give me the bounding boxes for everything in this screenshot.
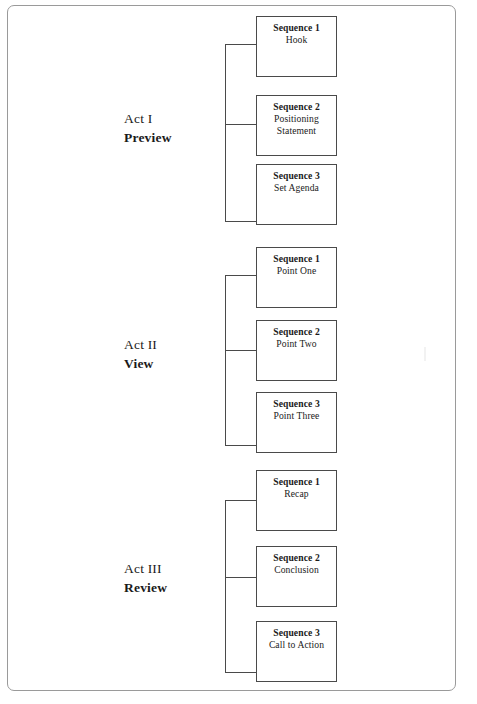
sequence-box-act1-2: Sequence 2 PositioningStatement <box>256 95 337 156</box>
act-label-3: Act III Review <box>124 560 167 597</box>
act-1-arm-2 <box>225 124 256 125</box>
act-name-2: Act II <box>124 336 157 355</box>
act-label-1: Act I Preview <box>124 110 172 147</box>
act-role-1: Preview <box>124 129 172 148</box>
sequence-title: Sequence 2 <box>257 101 336 113</box>
act-1-arm-3 <box>225 221 256 222</box>
act-2-bracket-spine <box>225 275 226 445</box>
sequence-title: Sequence 1 <box>257 253 336 265</box>
act-label-2: Act II View <box>124 336 157 373</box>
sequence-subtitle: Conclusion <box>257 564 336 576</box>
sequence-title: Sequence 1 <box>257 476 336 488</box>
sequence-box-act2-2: Sequence 2 Point Two <box>256 320 337 381</box>
sequence-subtitle: Point Two <box>257 338 336 350</box>
act-3-arm-2 <box>225 577 256 578</box>
act-1-arm-1 <box>225 44 256 45</box>
sequence-box-act3-1: Sequence 1 Recap <box>256 470 337 531</box>
sequence-title: Sequence 1 <box>257 22 336 34</box>
act-2-arm-2 <box>225 350 256 351</box>
sequence-box-act1-1: Sequence 1 Hook <box>256 16 337 77</box>
act-1-bracket-spine <box>225 44 226 221</box>
sequence-subtitle: Point Three <box>257 410 336 422</box>
sequence-box-act2-1: Sequence 1 Point One <box>256 247 337 308</box>
act-3-arm-1 <box>225 500 256 501</box>
sequence-subtitle: Recap <box>257 488 336 500</box>
act-name-1: Act I <box>124 110 172 129</box>
sequence-title: Sequence 2 <box>257 552 336 564</box>
act-name-3: Act III <box>124 560 167 579</box>
sequence-title: Sequence 3 <box>257 170 336 182</box>
act-3-bracket-spine <box>225 500 226 672</box>
act-2-arm-3 <box>225 445 256 446</box>
sequence-box-act2-3: Sequence 3 Point Three <box>256 392 337 453</box>
sequence-box-act3-2: Sequence 2 Conclusion <box>256 546 337 607</box>
act-role-3: Review <box>124 579 167 598</box>
scan-artifact <box>424 347 426 361</box>
sequence-box-act3-3: Sequence 3 Call to Action <box>256 621 337 682</box>
three-act-structure-diagram: Act I Preview Sequence 1 Hook Sequence 2… <box>0 0 477 704</box>
sequence-title: Sequence 2 <box>257 326 336 338</box>
sequence-subtitle: Set Agenda <box>257 182 336 194</box>
sequence-subtitle: Hook <box>257 34 336 46</box>
sequence-title: Sequence 3 <box>257 627 336 639</box>
sequence-box-act1-3: Sequence 3 Set Agenda <box>256 164 337 225</box>
act-2-arm-1 <box>225 275 256 276</box>
act-3-arm-3 <box>225 672 256 673</box>
sequence-subtitle: PositioningStatement <box>257 113 336 137</box>
sequence-subtitle: Point One <box>257 265 336 277</box>
sequence-subtitle: Call to Action <box>257 639 336 651</box>
sequence-title: Sequence 3 <box>257 398 336 410</box>
act-role-2: View <box>124 355 157 374</box>
